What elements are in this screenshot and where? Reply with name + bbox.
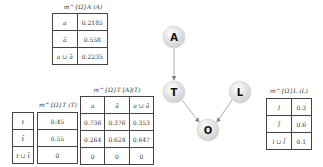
node-l: L xyxy=(229,81,251,103)
svg-text:T: T xyxy=(171,87,178,98)
ml-label: l̄ xyxy=(267,116,292,133)
edge-t-o xyxy=(182,100,199,122)
svg-text:O: O xyxy=(204,125,213,136)
svg-text:A: A xyxy=(170,32,178,43)
edge-l-o xyxy=(217,100,232,122)
ml-caption: m^{Ω}L (L) xyxy=(264,87,314,94)
ml-value: 0.6 xyxy=(291,116,311,133)
ml-label: l xyxy=(267,99,292,116)
ml-value: 0.1 xyxy=(291,133,311,150)
ml-table: l0.3 l̄0.6 l ∪ l̄0.1 xyxy=(266,98,312,150)
ml-label: l ∪ l̄ xyxy=(267,133,292,150)
svg-text:L: L xyxy=(237,87,244,98)
node-t: T xyxy=(163,81,185,103)
node-o: O xyxy=(197,119,219,141)
ml-value: 0.3 xyxy=(291,99,311,116)
node-a: A xyxy=(163,26,185,48)
